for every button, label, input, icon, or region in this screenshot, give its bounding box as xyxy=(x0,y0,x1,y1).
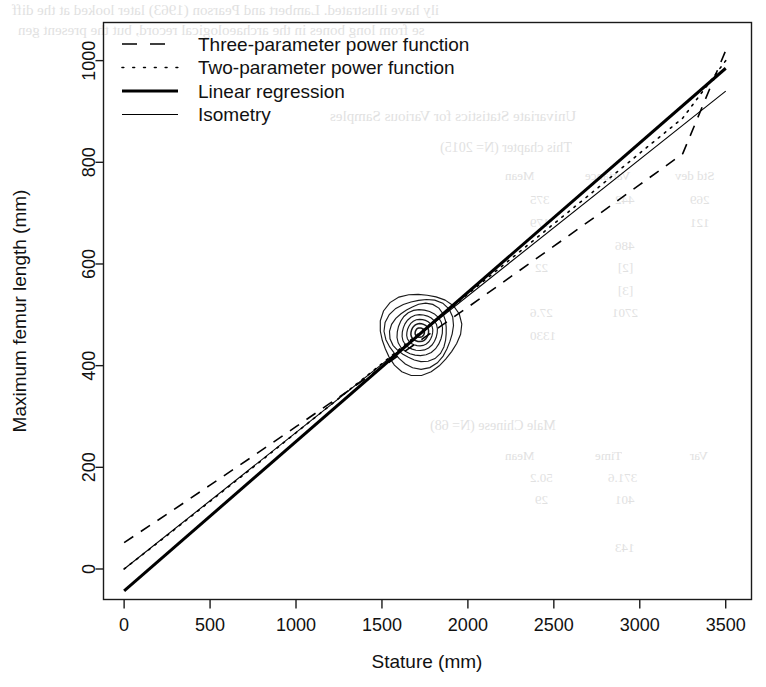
x-tick-label: 1000 xyxy=(276,615,316,635)
x-tick-label: 2000 xyxy=(448,615,488,635)
y-axis-ticks xyxy=(96,61,104,569)
series-line xyxy=(124,91,726,569)
legend-label: Isometry xyxy=(198,104,271,125)
y-tick-label: 400 xyxy=(80,351,100,381)
x-axis-title: Stature (mm) xyxy=(372,651,483,672)
legend-label: Linear regression xyxy=(198,81,345,102)
x-axis-ticks xyxy=(124,600,726,609)
x-tick-label: 3500 xyxy=(706,615,746,635)
x-tick-label: 1500 xyxy=(362,615,402,635)
y-tick-label: 600 xyxy=(80,249,100,279)
y-tick-label: 1000 xyxy=(80,41,100,81)
y-tick-label: 0 xyxy=(80,564,100,574)
x-tick-label: 0 xyxy=(119,615,129,635)
legend: Three-parameter power functionTwo-parame… xyxy=(122,34,469,126)
x-axis-tick-labels: 0500100015002000250030003500 xyxy=(119,615,746,635)
y-tick-label: 200 xyxy=(80,452,100,482)
x-tick-label: 2500 xyxy=(534,615,574,635)
legend-line-samples xyxy=(122,44,178,115)
y-axis-title: Maximum femur length (mm) xyxy=(9,190,30,433)
legend-label: Two-parameter power function xyxy=(198,57,455,78)
chart-svg: 02004006008001000 0500100015002000250030… xyxy=(0,0,766,687)
legend-label: Three-parameter power function xyxy=(198,34,469,55)
scatter-contour-figure: 02004006008001000 0500100015002000250030… xyxy=(0,0,766,687)
x-tick-label: 500 xyxy=(195,615,225,635)
y-axis-tick-labels: 02004006008001000 xyxy=(80,41,100,574)
y-tick-label: 800 xyxy=(80,147,100,177)
legend-labels: Three-parameter power functionTwo-parame… xyxy=(198,34,469,126)
x-tick-label: 3000 xyxy=(620,615,660,635)
